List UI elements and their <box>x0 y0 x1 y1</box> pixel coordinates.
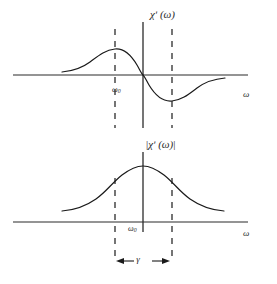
gamma-linewidth-label: γ <box>136 255 140 264</box>
upper-y-axis-label: χʹ (ω) <box>150 9 175 20</box>
upper-x-axis-label: ω <box>243 90 249 99</box>
lower-y-axis-label: |χʹ (ω)| <box>146 139 175 150</box>
lower-panel-group <box>13 152 248 264</box>
modulus-bar-close: | <box>173 138 175 150</box>
upper-resonance-label: ω0 <box>112 86 121 95</box>
gamma-width-arrow <box>116 258 170 264</box>
lower-resonance-label: ω0 <box>128 225 137 234</box>
modulus-body: χʹ (ω) <box>148 138 173 150</box>
plot-vector-layer <box>0 0 277 284</box>
upper-panel-group <box>13 22 248 128</box>
susceptibility-figure: χʹ (ω) ω ω0 |χʹ (ω)| ω ω0 γ <box>0 0 277 284</box>
upper-resonance-subscript: 0 <box>118 88 121 94</box>
lower-x-axis-label: ω <box>243 229 249 238</box>
gamma-arrow-head-left <box>116 258 124 264</box>
lower-resonance-subscript: 0 <box>134 227 137 233</box>
gamma-arrow-head-right <box>162 258 170 264</box>
